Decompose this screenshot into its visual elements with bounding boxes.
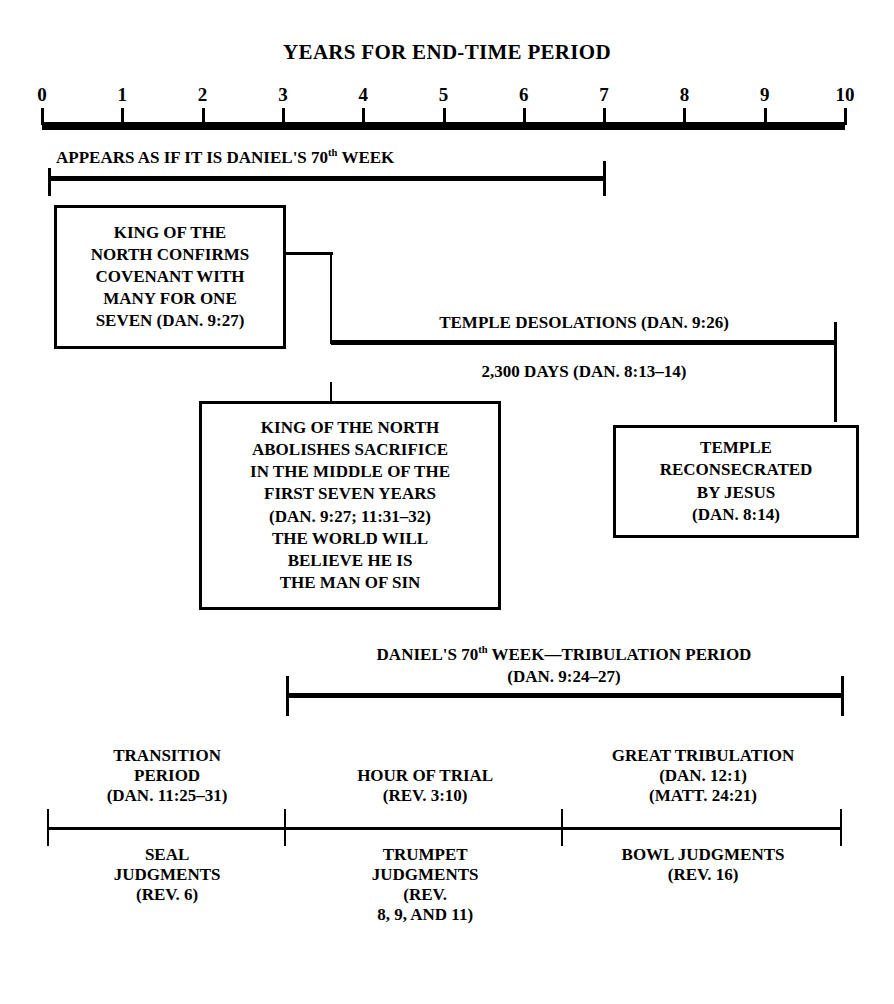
text-line: HOUR OF TRIAL [300, 766, 550, 786]
text-line: RECONSECRATED [620, 459, 852, 481]
text-line: JUDGMENTS [42, 865, 292, 885]
appears-as-if-label: APPEARS AS IF IT IS DANIEL'S 70th WEEK [56, 148, 394, 168]
text-line: (DAN. 8:14) [620, 504, 852, 526]
period-label-bowl-judgments: BOWL JUDGMENTS(REV. 16) [578, 845, 828, 885]
text-line: BY JESUS [620, 482, 852, 504]
judgments-axis-divider-1 [284, 809, 286, 846]
end-time-timeline-diagram: YEARS FOR END-TIME PERIOD 012345678910 A… [0, 0, 894, 1004]
tribulation-label-prefix: DANIEL'S 70 [377, 645, 479, 664]
appears-as-if-bar [48, 176, 606, 181]
text-line: TEMPLE [620, 437, 852, 459]
text-line: BELIEVE HE IS [206, 550, 494, 572]
year-tick-label-7: 7 [599, 84, 609, 106]
connector-vertical-step [330, 252, 332, 344]
text-line: (MATT. 24:21) [578, 786, 828, 806]
text-line: NORTH CONFIRMS [61, 244, 279, 266]
text-line: SEAL [42, 845, 292, 865]
text-line: SEVEN (DAN. 9:27) [61, 310, 279, 332]
text-line: (DAN. 11:25–31) [42, 786, 292, 806]
temple-desolations-end-cap [834, 322, 837, 422]
tribulation-label-line1: DANIEL'S 70th WEEK—TRIBULATION PERIOD [377, 645, 752, 665]
year-tick-label-8: 8 [680, 84, 690, 106]
text-line: 8, 9, AND 11) [300, 905, 550, 925]
text-line: KING OF THE NORTH [206, 417, 494, 439]
period-label-transition-period: TRANSITIONPERIOD(DAN. 11:25–31) [42, 746, 292, 806]
appears-as-if-label-suffix: WEEK [337, 148, 394, 167]
text-line: FIRST SEVEN YEARS [206, 483, 494, 505]
text-line: (DAN. 12:1) [578, 766, 828, 786]
year-tick-label-6: 6 [519, 84, 529, 106]
tribulation-label-sup: th [478, 644, 487, 655]
tribulation-label-suffix: WEEK—TRIBULATION PERIOD [488, 645, 752, 664]
year-tick-label-3: 3 [278, 84, 288, 106]
tribulation-label-line2-text: (DAN. 9:24–27) [507, 667, 620, 686]
text-line: (REV. [300, 885, 550, 905]
text-line: KING OF THE [61, 222, 279, 244]
period-label-seal-judgments: SEALJUDGMENTS(REV. 6) [42, 845, 292, 905]
text-line: IN THE MIDDLE OF THE [206, 461, 494, 483]
year-axis-rule [42, 122, 845, 130]
judgments-axis-end-cap [840, 809, 842, 846]
tribulation-start-cap [286, 676, 289, 716]
box-king-abolishes-sacrifice-text: KING OF THE NORTHABOLISHES SACRIFICEIN T… [206, 417, 494, 594]
year-tick-label-4: 4 [358, 84, 368, 106]
period-label-trumpet-judgments: TRUMPETJUDGMENTS(REV.8, 9, AND 11) [300, 845, 550, 925]
text-line: BOWL JUDGMENTS [578, 845, 828, 865]
box-king-confirms-covenant-text: KING OF THENORTH CONFIRMSCOVENANT WITHMA… [61, 222, 279, 332]
text-line: (REV. 3:10) [300, 786, 550, 806]
text-line: (REV. 16) [578, 865, 828, 885]
text-line: TRUMPET [300, 845, 550, 865]
box-temple-reconsecrated-text: TEMPLERECONSECRATEDBY JESUS(DAN. 8:14) [620, 437, 852, 525]
tribulation-label-line2: (DAN. 9:24–27) [507, 667, 620, 687]
text-line: (REV. 6) [42, 885, 292, 905]
text-line: THE MAN OF SIN [206, 572, 494, 594]
text-line: TRANSITION [42, 746, 292, 766]
text-line: JUDGMENTS [300, 865, 550, 885]
appears-as-if-end-cap [603, 161, 606, 196]
days-2300-label: 2,300 DAYS (DAN. 8:13–14) [482, 362, 687, 382]
text-line: (DAN. 9:27; 11:31–32) [206, 506, 494, 528]
page-title: YEARS FOR END-TIME PERIOD [0, 40, 894, 65]
temple-desolations-bar [331, 340, 836, 345]
judgments-axis-divider-2 [561, 809, 563, 846]
judgments-axis-start-cap [47, 809, 49, 846]
text-line: ABOLISHES SACRIFICE [206, 439, 494, 461]
temple-desolations-label-text: TEMPLE DESOLATIONS (DAN. 9:26) [439, 313, 729, 332]
period-label-hour-of-trial: HOUR OF TRIAL(REV. 3:10) [300, 766, 550, 806]
connector-vertical-to-abolishes-box [330, 382, 332, 402]
connector-horizontal-upper [284, 252, 333, 255]
text-line: GREAT TRIBULATION [578, 746, 828, 766]
days-2300-label-text: 2,300 DAYS (DAN. 8:13–14) [482, 362, 687, 381]
box-king-abolishes-sacrifice: KING OF THE NORTHABOLISHES SACRIFICEIN T… [199, 401, 501, 610]
text-line: MANY FOR ONE [61, 288, 279, 310]
box-king-confirms-covenant: KING OF THENORTH CONFIRMSCOVENANT WITHMA… [54, 205, 286, 349]
year-tick-label-2: 2 [198, 84, 208, 106]
appears-as-if-start-cap [48, 168, 51, 196]
year-tick-label-10: 10 [836, 84, 855, 106]
text-line: THE WORLD WILL [206, 528, 494, 550]
text-line: COVENANT WITH [61, 266, 279, 288]
year-tick-label-5: 5 [439, 84, 449, 106]
tribulation-bar [287, 693, 843, 698]
temple-desolations-label: TEMPLE DESOLATIONS (DAN. 9:26) [439, 313, 729, 333]
text-line: PERIOD [42, 766, 292, 786]
judgments-axis-rule [48, 827, 842, 830]
box-temple-reconsecrated: TEMPLERECONSECRATEDBY JESUS(DAN. 8:14) [613, 425, 859, 538]
period-label-great-tribulation: GREAT TRIBULATION(DAN. 12:1)(MATT. 24:21… [578, 746, 828, 806]
year-tick-label-9: 9 [760, 84, 770, 106]
year-tick-label-1: 1 [118, 84, 128, 106]
appears-as-if-label-prefix: APPEARS AS IF IT IS DANIEL'S 70 [56, 148, 328, 167]
tribulation-end-cap [841, 676, 844, 716]
year-tick-label-0: 0 [37, 84, 47, 106]
